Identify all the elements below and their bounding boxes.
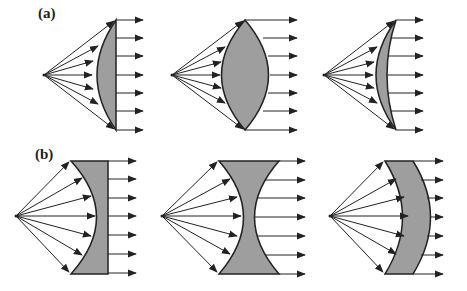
panel-b3-concave-meniscus (330, 161, 443, 274)
panel-b1-plano-concave (16, 161, 136, 274)
panel-a3-convex-meniscus (324, 20, 423, 130)
lens-ray-diagram (0, 0, 467, 291)
panel-a1-plano-convex (44, 20, 143, 130)
point-sources (15, 74, 332, 218)
panel-a2-biconvex (172, 20, 297, 130)
panel-b2-biconcave (162, 161, 305, 274)
